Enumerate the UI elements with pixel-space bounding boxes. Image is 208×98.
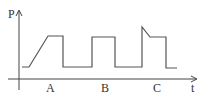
x-axis-label: t [191,81,195,95]
signal-line [22,27,177,68]
step-signal-diagram: P t A B C [0,0,208,98]
marker-b-label: B [101,81,109,95]
marker-a-label: A [46,81,55,95]
y-axis-label: P [8,7,15,21]
marker-c-label: C [153,81,161,95]
